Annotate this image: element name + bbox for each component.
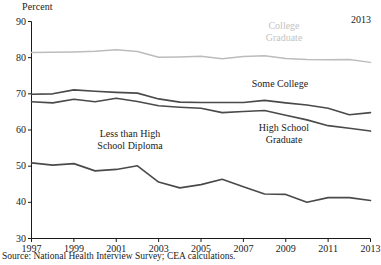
series-label-college-graduate-line2: Graduate bbox=[246, 32, 322, 44]
y-axis-tick-label: 50 bbox=[0, 161, 26, 171]
series-label-some-college-text: Some College bbox=[232, 78, 328, 90]
y-axis-tick-label: 70 bbox=[0, 89, 26, 99]
series-label-some-college: Some College bbox=[232, 78, 328, 90]
y-axis-tick-label: 80 bbox=[0, 53, 26, 63]
series-label-less-than-high-school: Less than High School Diploma bbox=[78, 128, 182, 151]
series-label-high-school-graduate: High School Graduate bbox=[238, 122, 330, 145]
source-note: Source: National Health Interview Survey… bbox=[2, 251, 235, 262]
x-axis-tick-label: 2007 bbox=[233, 244, 253, 254]
series-label-college-graduate: College Graduate bbox=[246, 20, 322, 43]
y-axis-tick-label: 60 bbox=[0, 125, 26, 135]
series-label-less-than-high-school-line1: Less than High bbox=[78, 128, 182, 140]
x-axis-tick-label: 2011 bbox=[318, 244, 338, 254]
y-axis-tick-label: 40 bbox=[0, 197, 26, 207]
series-label-less-than-high-school-line2: School Diploma bbox=[78, 140, 182, 152]
x-axis-tick-label: 2009 bbox=[276, 244, 296, 254]
y-axis-tick-label: 90 bbox=[0, 17, 26, 27]
x-axis-tick-label: 2013 bbox=[361, 244, 381, 254]
series-line-some-college bbox=[32, 90, 371, 115]
series-line-college-graduate bbox=[32, 50, 371, 63]
series-line-less-than-high-school-diploma bbox=[32, 163, 371, 202]
series-label-college-graduate-line1: College bbox=[246, 20, 322, 32]
series-label-high-school-graduate-line2: Graduate bbox=[238, 134, 330, 146]
series-label-high-school-graduate-line1: High School bbox=[238, 122, 330, 134]
